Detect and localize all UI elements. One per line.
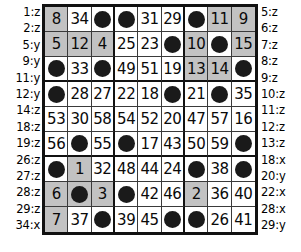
cell-value: 48 <box>117 160 135 178</box>
grid-cell[interactable]: 25 <box>115 32 138 57</box>
cell-value: 35 <box>234 85 252 103</box>
grid-cell[interactable]: 1 <box>68 157 91 182</box>
grid-cell[interactable]: 52 <box>138 107 161 132</box>
grid-cell[interactable]: 55 <box>92 132 115 157</box>
grid-cell[interactable]: 53 <box>45 107 68 132</box>
grid-cell[interactable]: 22 <box>115 82 138 107</box>
grid-cell[interactable]: 46 <box>162 182 185 207</box>
grid-cell[interactable]: 24 <box>162 157 185 182</box>
grid-cell-dot[interactable] <box>45 82 68 107</box>
grid-cell[interactable]: 5 <box>45 32 68 57</box>
grid-cell[interactable]: 29 <box>162 7 185 32</box>
grid-cell-dot[interactable] <box>185 157 208 182</box>
grid-cell[interactable]: 30 <box>68 107 91 132</box>
right-label-8: 13:z <box>261 135 285 151</box>
grid-cell[interactable]: 26 <box>208 207 231 232</box>
grid-cell[interactable]: 10 <box>185 32 208 57</box>
grid-cell[interactable]: 2 <box>185 182 208 207</box>
filled-circle-icon <box>118 11 135 28</box>
grid-cell[interactable]: 19 <box>162 57 185 82</box>
grid-cell[interactable]: 39 <box>115 207 138 232</box>
grid-cell-dot[interactable] <box>45 57 68 82</box>
grid-cell[interactable]: 20 <box>162 107 185 132</box>
grid-cell-dot[interactable] <box>115 132 138 157</box>
cell-value: 47 <box>187 110 205 128</box>
grid-cell[interactable]: 36 <box>208 182 231 207</box>
grid-cell[interactable]: 12 <box>68 32 91 57</box>
cell-value: 45 <box>140 211 158 229</box>
grid-cell-dot[interactable] <box>185 207 208 232</box>
grid-cell-dot[interactable] <box>45 157 68 182</box>
grid-cell[interactable]: 8 <box>45 7 68 32</box>
grid-cell[interactable]: 57 <box>208 107 231 132</box>
grid-cell-dot[interactable] <box>208 32 231 57</box>
cell-value: 32 <box>93 160 111 178</box>
grid-cell[interactable]: 51 <box>138 57 161 82</box>
grid-cell[interactable]: 6 <box>45 182 68 207</box>
grid-cell[interactable]: 38 <box>208 157 231 182</box>
grid-cell[interactable]: 56 <box>45 132 68 157</box>
grid-cell-dot[interactable] <box>92 7 115 32</box>
grid-cell[interactable]: 40 <box>232 182 255 207</box>
grid-cell[interactable]: 15 <box>232 32 255 57</box>
right-label-11: 22:x <box>261 184 286 200</box>
cell-value: 28 <box>70 85 88 103</box>
cell-value: 23 <box>140 35 158 53</box>
grid-cell-dot[interactable] <box>115 182 138 207</box>
cell-value: 50 <box>187 135 205 153</box>
grid-cell[interactable]: 33 <box>68 57 91 82</box>
cell-value: 56 <box>47 135 65 153</box>
grid-cell[interactable]: 13 <box>185 57 208 82</box>
grid-cell-dot[interactable] <box>232 57 255 82</box>
grid-cell[interactable]: 47 <box>185 107 208 132</box>
grid-cell[interactable]: 49 <box>115 57 138 82</box>
grid-cell-dot[interactable] <box>162 207 185 232</box>
left-label-6: 14:z <box>16 102 40 118</box>
grid-cell[interactable]: 37 <box>68 207 91 232</box>
cell-value: 18 <box>140 85 158 103</box>
grid-cell[interactable]: 44 <box>138 157 161 182</box>
grid-cell[interactable]: 50 <box>185 132 208 157</box>
grid-cell-dot[interactable] <box>68 132 91 157</box>
grid-cell[interactable]: 43 <box>162 132 185 157</box>
grid-cell-dot[interactable] <box>68 182 91 207</box>
grid-cell[interactable]: 35 <box>232 82 255 107</box>
grid-cell[interactable]: 28 <box>68 82 91 107</box>
grid-cell-dot[interactable] <box>232 157 255 182</box>
cell-value: 8 <box>52 10 61 28</box>
grid-cell[interactable]: 59 <box>208 132 231 157</box>
grid-cell[interactable]: 7 <box>45 207 68 232</box>
grid-cell-dot[interactable] <box>208 82 231 107</box>
grid-cell[interactable]: 58 <box>92 107 115 132</box>
grid-cell[interactable]: 27 <box>92 82 115 107</box>
cell-value: 24 <box>163 160 181 178</box>
grid-cell-dot[interactable] <box>162 32 185 57</box>
grid-cell[interactable]: 42 <box>138 182 161 207</box>
filled-circle-icon <box>235 60 252 77</box>
grid-cell[interactable]: 11 <box>208 7 231 32</box>
grid-cell-dot[interactable] <box>232 132 255 157</box>
cell-value: 36 <box>210 185 228 203</box>
grid-cell[interactable]: 32 <box>92 157 115 182</box>
grid-cell-dot[interactable] <box>185 7 208 32</box>
grid-cell[interactable]: 45 <box>138 207 161 232</box>
grid-cell[interactable]: 34 <box>68 7 91 32</box>
grid-cell[interactable]: 18 <box>138 82 161 107</box>
grid-cell[interactable]: 4 <box>92 32 115 57</box>
grid-cell[interactable]: 41 <box>232 207 255 232</box>
grid-cell-dot[interactable] <box>115 7 138 32</box>
grid-cell[interactable]: 54 <box>115 107 138 132</box>
grid-cell[interactable]: 17 <box>138 132 161 157</box>
grid-cell[interactable]: 14 <box>208 57 231 82</box>
grid-cell-dot[interactable] <box>92 207 115 232</box>
grid-cell[interactable]: 31 <box>138 7 161 32</box>
grid-cell-dot[interactable] <box>162 82 185 107</box>
grid-cell[interactable]: 16 <box>232 107 255 132</box>
grid-cell[interactable]: 23 <box>138 32 161 57</box>
grid-cell[interactable]: 3 <box>92 182 115 207</box>
grid-cell[interactable]: 9 <box>232 7 255 32</box>
grid-cell-dot[interactable] <box>92 57 115 82</box>
grid-cell[interactable]: 21 <box>185 82 208 107</box>
cell-value: 33 <box>70 60 88 78</box>
grid-cell[interactable]: 48 <box>115 157 138 182</box>
